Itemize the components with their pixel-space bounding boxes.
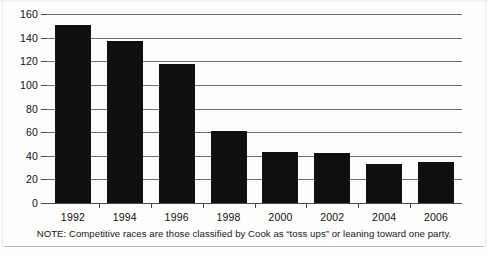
y-axis-tick	[41, 14, 47, 15]
y-axis-tick	[41, 179, 47, 180]
x-axis-label: 1994	[113, 211, 137, 223]
y-axis-tick	[41, 109, 47, 110]
y-axis-label: 100	[20, 79, 38, 91]
y-axis-tick	[41, 203, 47, 204]
bar	[211, 131, 247, 203]
y-axis-tick	[41, 61, 47, 62]
y-axis-label: 0	[32, 197, 38, 209]
x-axis-label: 2006	[424, 211, 448, 223]
y-axis-label: 80	[26, 103, 38, 115]
x-axis-label: 2002	[320, 211, 344, 223]
bar	[262, 152, 298, 203]
bar	[366, 164, 402, 203]
figure-right-border	[485, 2, 486, 248]
x-axis-tick	[306, 203, 307, 208]
bar	[418, 162, 454, 203]
gridline	[47, 38, 462, 39]
x-axis-tick	[358, 203, 359, 208]
y-axis-label: 160	[20, 8, 38, 20]
y-axis-tick	[41, 85, 47, 86]
x-axis-tick	[203, 203, 204, 208]
y-axis-label: 120	[20, 55, 38, 67]
plot-area: 020406080100120140160	[47, 14, 462, 203]
y-axis-tick	[41, 38, 47, 39]
bar	[55, 25, 91, 203]
x-axis-tick	[151, 203, 152, 208]
x-axis-tick	[255, 203, 256, 208]
gridline	[47, 14, 462, 15]
y-axis-label: 60	[26, 126, 38, 138]
y-axis-label: 20	[26, 173, 38, 185]
chart-note: NOTE: Competitive races are those classi…	[0, 228, 488, 239]
bar	[159, 64, 195, 203]
bar	[107, 41, 143, 203]
y-axis-tick	[41, 132, 47, 133]
x-axis-tick	[99, 203, 100, 208]
y-axis-label: 140	[20, 32, 38, 44]
bar	[314, 153, 350, 203]
x-axis-label: 1996	[165, 211, 189, 223]
y-axis-label: 40	[26, 150, 38, 162]
figure-left-border	[2, 2, 3, 248]
x-axis-label: 1992	[61, 211, 85, 223]
chart-figure: 020406080100120140160 NOTE: Competitive …	[0, 0, 488, 256]
x-axis-label: 1998	[216, 211, 240, 223]
figure-bottom-border	[4, 246, 484, 247]
x-axis-tick	[410, 203, 411, 208]
x-axis-label: 2004	[372, 211, 396, 223]
y-axis-tick	[41, 156, 47, 157]
x-axis-label: 2000	[268, 211, 292, 223]
